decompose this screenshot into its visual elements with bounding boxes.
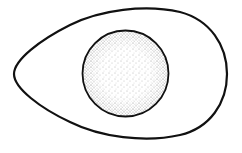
egg-illustration: Line drawing of an egg with a stippled y…: [0, 0, 242, 153]
yolk: [83, 31, 169, 117]
egg-drawing: [0, 0, 242, 153]
